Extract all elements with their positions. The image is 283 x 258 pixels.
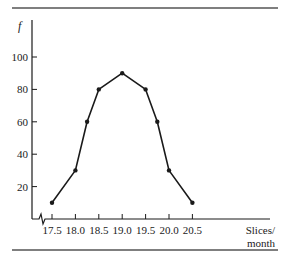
x-tick-label: 17.5 (42, 224, 62, 236)
x-axis-label-line2: month (247, 237, 276, 249)
data-point-marker (155, 120, 159, 124)
y-axis-label: f (18, 19, 23, 33)
x-tick-label: 19.0 (113, 224, 133, 236)
y-tick-label: 40 (17, 148, 29, 160)
series-line (52, 73, 192, 203)
data-point-marker (85, 120, 89, 124)
x-tick-label: 19.5 (136, 224, 156, 236)
frequency-polygon-chart: 20406080100 17.518.018.519.019.520.020.5… (0, 0, 283, 258)
x-tick-label: 18.0 (66, 224, 86, 236)
data-point-marker (73, 168, 77, 172)
data-series (50, 71, 195, 205)
x-axis: 17.518.018.519.019.520.020.5 (32, 214, 270, 236)
data-point-marker (167, 168, 171, 172)
y-tick-label: 100 (12, 51, 29, 63)
data-point-marker (97, 87, 101, 91)
x-tick-label: 20.0 (159, 224, 179, 236)
data-point-marker (120, 71, 124, 75)
y-tick-label: 80 (17, 83, 29, 95)
x-axis-label-line1: Slices/ (246, 224, 276, 236)
data-point-marker (50, 201, 54, 205)
x-tick-label: 18.5 (89, 224, 109, 236)
y-tick-label: 60 (17, 116, 29, 128)
y-axis: 20406080100 (12, 20, 38, 219)
x-tick-label: 20.5 (183, 224, 203, 236)
y-tick-label: 20 (17, 181, 29, 193)
x-axis-line-with-break (32, 214, 270, 224)
data-point-marker (190, 201, 194, 205)
data-point-marker (143, 87, 147, 91)
